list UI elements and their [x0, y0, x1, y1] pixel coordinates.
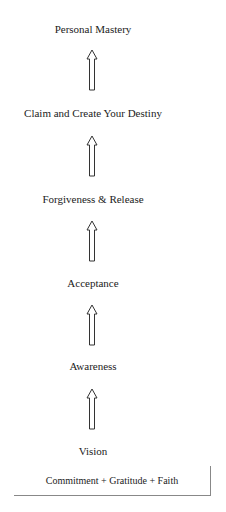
up-arrow-icon [86, 388, 98, 430]
up-arrow-icon [86, 304, 98, 346]
foundation-box: Commitment + Gratitude + Faith [14, 466, 211, 496]
step-vision: Vision [0, 444, 186, 458]
step-claim-destiny: Claim and Create Your Destiny [0, 106, 186, 120]
step-personal-mastery: Personal Mastery [0, 22, 186, 36]
up-arrow-icon [86, 135, 98, 177]
step-forgiveness-release: Forgiveness & Release [0, 192, 186, 206]
up-arrow-icon [86, 220, 98, 262]
step-acceptance: Acceptance [0, 276, 186, 290]
step-awareness: Awareness [0, 359, 186, 373]
up-arrow-icon [86, 49, 98, 91]
foundation-text: Commitment + Gratitude + Faith [14, 474, 210, 487]
